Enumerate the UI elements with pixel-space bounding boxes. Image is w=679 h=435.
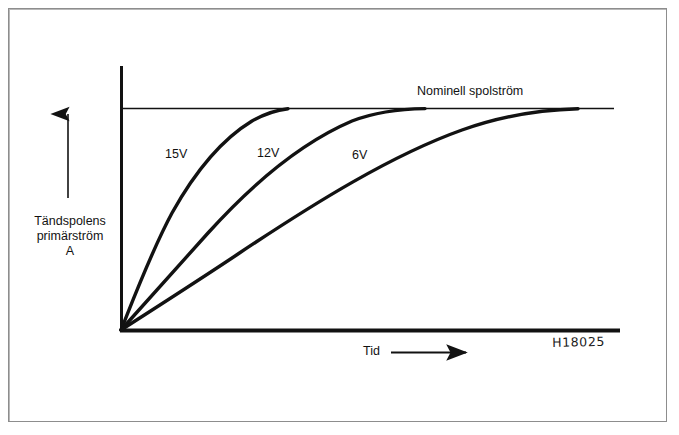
series-label-6v: 6V <box>352 148 367 163</box>
y-axis-label-line1: Tändspolens <box>18 214 122 229</box>
y-axis-label-line3: A <box>18 244 122 259</box>
y-axis-label: Tändspolens primärström A <box>18 214 122 258</box>
y-axis-label-line2: primärström <box>18 229 122 244</box>
series-label-12v: 12V <box>257 146 279 161</box>
x-axis-label: Tid <box>363 344 380 359</box>
series-label-15v: 15V <box>165 147 187 162</box>
figure-root: Tändspolens primärström A Nominell spols… <box>0 0 679 435</box>
curve-12v <box>121 109 425 330</box>
curve-15v <box>121 109 288 330</box>
curve-6v <box>121 109 578 330</box>
figure-code-label: H18025 <box>552 335 605 351</box>
nominal-current-label: Nominell spolström <box>417 84 523 99</box>
